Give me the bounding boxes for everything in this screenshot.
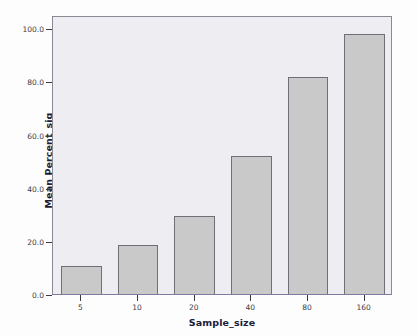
x-tick-10 (137, 295, 138, 301)
y-tick-label: 80.0 (4, 78, 44, 87)
x-tick-80 (307, 295, 308, 301)
bar-chart: Mean Percent_sig Sample_size 0.020.040.0… (0, 0, 417, 336)
x-tick-label: 5 (60, 303, 100, 312)
x-tick-label: 40 (230, 303, 270, 312)
plot-inner (53, 17, 391, 294)
y-tick-label: 0.0 (4, 291, 44, 300)
x-tick-label: 20 (174, 303, 214, 312)
plot-area (52, 16, 392, 295)
bar-160 (344, 34, 385, 294)
x-tick-5 (80, 295, 81, 301)
bar-80 (288, 77, 329, 294)
bar-40 (231, 156, 272, 294)
x-tick-label: 160 (344, 303, 384, 312)
x-tick-40 (250, 295, 251, 301)
y-tick-label: 20.0 (4, 238, 44, 247)
x-tick-label: 10 (117, 303, 157, 312)
x-axis-title: Sample_size (52, 317, 392, 328)
bar-5 (61, 266, 102, 294)
x-tick-20 (194, 295, 195, 301)
baseline-accent (52, 294, 392, 295)
x-tick-label: 80 (287, 303, 327, 312)
x-tick-160 (364, 295, 365, 301)
y-tick-0.0 (46, 295, 52, 296)
y-tick-label: 100.0 (4, 25, 44, 34)
bar-20 (174, 216, 215, 294)
y-tick-label: 60.0 (4, 132, 44, 141)
bar-10 (118, 245, 159, 294)
y-tick-label: 40.0 (4, 185, 44, 194)
